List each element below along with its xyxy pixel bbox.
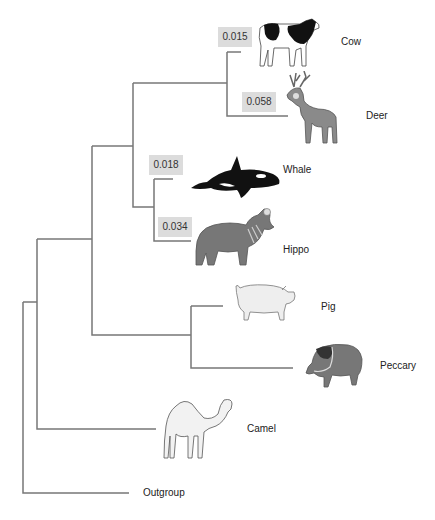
branch-camel	[37, 239, 156, 429]
branch-outgroup	[23, 302, 129, 493]
whale-icon	[189, 156, 283, 200]
taxon-label-outgroup: Outgroup	[143, 487, 185, 499]
branch-whippomorpha	[133, 83, 154, 207]
taxon-label-camel: Camel	[247, 423, 276, 435]
taxon-label-deer: Deer	[366, 110, 388, 122]
peccary-icon	[304, 343, 364, 389]
taxon-label-pig: Pig	[321, 301, 335, 313]
hippo-icon	[194, 207, 276, 269]
branch-length-whale: 0.018	[149, 155, 183, 175]
branch-length-hippo: 0.034	[158, 217, 192, 237]
taxon-label-hippo: Hippo	[283, 244, 309, 256]
pig-icon	[232, 282, 298, 324]
deer-icon	[284, 71, 340, 145]
camel-icon	[162, 396, 236, 460]
taxon-label-cow: Cow	[341, 36, 361, 48]
branch-length-cow: 0.015	[218, 27, 252, 47]
branch-length-deer: 0.058	[242, 92, 276, 112]
cow-icon	[256, 16, 322, 70]
taxon-label-peccary: Peccary	[380, 360, 416, 372]
taxon-label-whale: Whale	[283, 164, 311, 176]
